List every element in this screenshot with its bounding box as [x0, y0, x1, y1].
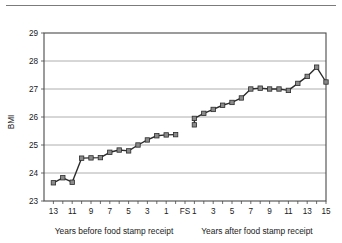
after-point-10 [277, 87, 281, 91]
after-point-1 [192, 116, 196, 120]
after-point-3 [211, 107, 215, 111]
series-before-food-stamp [51, 132, 178, 185]
y-tick-label-28: 28 [29, 57, 39, 66]
after-point-14 [314, 65, 318, 69]
after-point-15 [324, 80, 328, 84]
after-point-5 [230, 100, 234, 104]
x-tick-label-after-7: 7 [249, 207, 254, 216]
before-line [53, 135, 175, 183]
x-tick-label-after-11: 11 [284, 207, 293, 216]
series-after-food-stamp [192, 65, 328, 127]
after-point-9 [267, 87, 271, 91]
before-point-13 [173, 132, 177, 136]
before-point-0 [51, 181, 55, 185]
y-axis-title: BMI [7, 115, 16, 130]
y-tick-label-26: 26 [29, 113, 39, 122]
x-tick-label-after-9: 9 [267, 207, 272, 216]
after-point-8 [258, 86, 262, 90]
after-point-4 [220, 103, 224, 107]
y-tick-label-25: 25 [29, 141, 39, 150]
before-point-3 [79, 156, 83, 160]
after-point-11 [286, 88, 290, 92]
before-point-6 [108, 150, 112, 154]
x-tick-label-before-11: 11 [68, 207, 77, 216]
after-point-0 [192, 123, 196, 127]
chart-svg: 29 28 27 26 25 24 23 BMI 131197531FS1357… [0, 0, 342, 243]
x-tick-label-after-1: 1 [192, 207, 197, 216]
x-axis-title-left: Years before food stamp receipt [55, 226, 174, 236]
before-point-1 [61, 176, 65, 180]
x-tick-label-after-13: 13 [303, 207, 313, 216]
x-tick-label-before-7: 7 [108, 207, 113, 216]
x-tick-label-before-5: 5 [126, 207, 131, 216]
after-point-6 [239, 96, 243, 100]
y-tick-label-24: 24 [29, 169, 39, 178]
x-tick-label-before-3: 3 [145, 207, 150, 216]
y-tick-label-23: 23 [29, 197, 39, 206]
before-point-8 [126, 149, 130, 153]
x-axis-title-right: Years after food stamp receipt [201, 226, 313, 236]
before-point-12 [164, 133, 168, 137]
x-tick-label-after-3: 3 [211, 207, 216, 216]
x-tick-label-after-5: 5 [230, 207, 235, 216]
before-point-9 [136, 143, 140, 147]
chart-page: 29 28 27 26 25 24 23 BMI 131197531FS1357… [0, 0, 342, 243]
before-point-7 [117, 148, 121, 152]
gridlines [44, 61, 326, 173]
before-point-2 [70, 180, 74, 184]
before-point-11 [155, 134, 159, 138]
after-point-2 [202, 111, 206, 115]
y-tick-labels: 29 28 27 26 25 24 23 [29, 29, 39, 206]
after-point-13 [305, 74, 309, 78]
x-tick-label-before-9: 9 [89, 207, 94, 216]
after-point-12 [296, 81, 300, 85]
before-point-4 [89, 156, 93, 160]
after-point-7 [249, 87, 253, 91]
x-tick-label-after-15: 15 [321, 207, 331, 216]
y-tick-label-29: 29 [29, 29, 39, 38]
y-tick-label-27: 27 [29, 85, 39, 94]
x-tick-label-before-1: 1 [164, 207, 169, 216]
x-tick-label-before-13: 13 [49, 207, 59, 216]
x-tick-labels: 131197531FS13579111315 [49, 207, 331, 216]
bmi-line-chart: 29 28 27 26 25 24 23 BMI 131197531FS1357… [0, 0, 342, 243]
before-point-10 [145, 138, 149, 142]
before-point-5 [98, 155, 102, 159]
x-tick-label-food-stamp: FS [180, 207, 191, 216]
